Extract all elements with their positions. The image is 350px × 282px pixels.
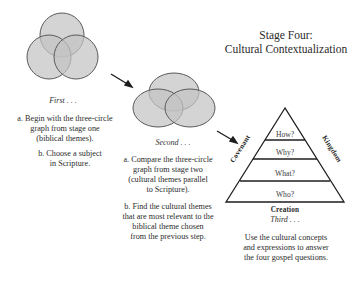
step-first-a-line: graph from stage one xyxy=(0,124,130,134)
venn-diagram-first xyxy=(27,13,98,79)
step-second-a-line: a. Compare the three-circle xyxy=(103,155,233,165)
step-third-line: Use the cultural concepts xyxy=(222,233,350,243)
pyramid-level-what: What? xyxy=(275,169,295,178)
stage-title-line2: Cultural Contextualization xyxy=(222,42,350,56)
step-second-a-line: graph from stage two xyxy=(103,165,233,175)
arrow-second-to-third xyxy=(217,131,237,143)
pyramid-level-how: How? xyxy=(276,130,295,139)
step-third-line: and expressions to answer xyxy=(222,243,350,253)
step-second-b-line: biblical theme chosen xyxy=(100,222,236,232)
stage-title: Stage Four: Cultural Contextualization xyxy=(222,28,350,56)
venn-ellipse-right xyxy=(165,89,215,127)
step-second-b-line: that are most relevant to the xyxy=(100,212,236,222)
step-second-a: a. Compare the three-circle graph from s… xyxy=(103,155,233,195)
step-first-a: a. Begin with the three-circle graph fro… xyxy=(0,114,130,144)
step-third-text: Use the cultural concepts and expression… xyxy=(222,233,350,263)
step-second-b-line: from the previous step. xyxy=(100,232,236,242)
caption-first: First . . . xyxy=(20,96,106,105)
pyramid-level-why: Why? xyxy=(276,148,295,157)
step-first-a-line: a. Begin with the three-circle xyxy=(0,114,130,124)
pyramid-level-who: Who? xyxy=(276,190,295,199)
stage-title-line1: Stage Four: xyxy=(222,28,350,42)
venn-diagram-second xyxy=(133,73,215,127)
arrow-first-to-second xyxy=(111,74,132,87)
caption-third: Third . . . xyxy=(242,215,328,224)
venn-circle-right xyxy=(54,35,98,79)
step-second-a-line: to Scripture). xyxy=(103,185,233,195)
caption-second: Second . . . xyxy=(130,138,216,147)
pyramid-label-creation: Creation xyxy=(271,206,300,214)
step-second-a-line: (cultural themes parallel xyxy=(103,175,233,185)
step-third-line: the four gospel questions. xyxy=(222,253,350,263)
step-second-b-line: b. Find the cultural themes xyxy=(100,202,236,212)
step-second-b: b. Find the cultural themes that are mos… xyxy=(100,202,236,242)
step-first-a-line: (biblical themes). xyxy=(0,134,130,144)
pyramid-label-kingdom: Kingdom xyxy=(320,134,343,164)
